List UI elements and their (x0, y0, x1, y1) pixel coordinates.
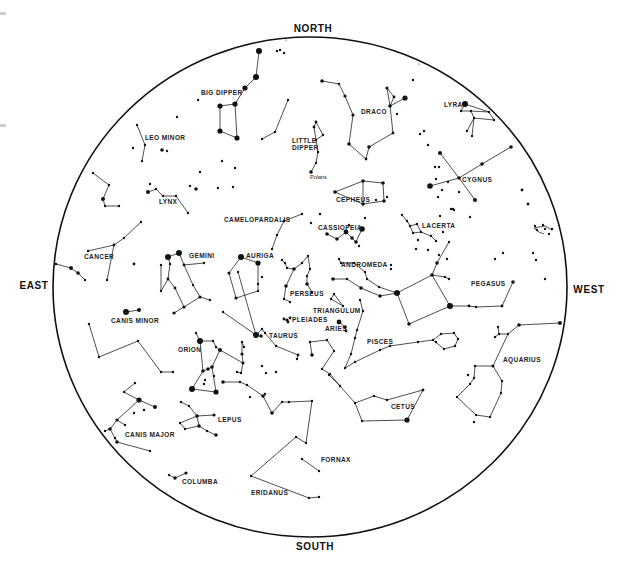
star (417, 341, 419, 343)
star (432, 339, 434, 341)
constellation-line (351, 338, 355, 354)
star (286, 267, 288, 269)
constellation-line (355, 350, 380, 362)
star (419, 133, 421, 135)
star (133, 263, 136, 266)
star (311, 400, 313, 402)
star (115, 418, 118, 421)
label-lynx: LYNX (159, 198, 178, 205)
star (124, 424, 126, 426)
constellation-line (168, 264, 170, 279)
constellation-line (409, 306, 450, 324)
star (470, 110, 472, 112)
direction-south: SOUTH (296, 541, 334, 552)
constellation-line (349, 115, 353, 144)
constellation-line (334, 294, 343, 306)
star (488, 111, 490, 113)
constellation-line (418, 340, 433, 342)
star (197, 338, 203, 344)
star (423, 130, 425, 132)
direction-east: EAST (19, 280, 48, 291)
star (257, 290, 259, 292)
star (430, 235, 432, 237)
star (199, 171, 201, 173)
star (362, 310, 364, 312)
label-cygnus: CYGNUS (462, 176, 492, 183)
constellation-line (397, 293, 409, 324)
star (375, 199, 377, 201)
star (378, 294, 382, 298)
label-pleiades: PLEIADES (292, 316, 328, 323)
constellation-line (192, 389, 216, 392)
star (189, 386, 195, 392)
star (386, 399, 388, 401)
constellation-line (322, 369, 330, 374)
star (285, 39, 286, 40)
constellation-line (387, 390, 423, 400)
star (218, 348, 222, 352)
star (136, 397, 141, 402)
star (330, 298, 332, 300)
stars-monoceros (88, 323, 174, 373)
label-lepus: LEPUS (218, 416, 242, 423)
star (160, 371, 162, 373)
constellation-line (345, 96, 353, 115)
constellation-line (263, 396, 272, 413)
star (325, 232, 329, 236)
star (361, 420, 363, 422)
star (241, 341, 243, 343)
constellation-line (114, 238, 124, 245)
star (306, 275, 308, 277)
star (137, 308, 141, 312)
star (149, 183, 151, 185)
star (187, 212, 189, 214)
star (133, 412, 135, 414)
constellation-line (383, 183, 384, 201)
constellation-line (247, 385, 263, 396)
constellation-cetus (329, 375, 423, 421)
constellation-line (432, 275, 445, 277)
star (415, 248, 417, 250)
star (354, 240, 358, 244)
constellation-line (440, 153, 459, 178)
star (227, 271, 230, 274)
edge-artifact (0, 12, 6, 15)
star (287, 321, 290, 324)
label-little-dipper-line2: DIPPER (292, 144, 319, 151)
star (498, 333, 500, 335)
constellation-aquarius (457, 323, 560, 417)
star (467, 374, 469, 376)
stars-cancer-east (55, 263, 86, 281)
star (283, 52, 285, 54)
star (215, 346, 217, 348)
star (182, 305, 185, 308)
star (542, 224, 544, 226)
constellation-line (138, 341, 161, 372)
star (261, 328, 263, 330)
stars-eridanus (221, 380, 320, 499)
label-leo-minor: LEO MINOR (145, 134, 185, 141)
star (438, 166, 440, 168)
star (333, 350, 335, 352)
constellation-line (88, 245, 114, 251)
constellation-line (362, 420, 407, 421)
star (265, 372, 267, 374)
star (253, 332, 259, 338)
constellation-line (441, 333, 454, 334)
star (359, 286, 363, 290)
constellation-line (534, 228, 544, 234)
star (473, 377, 475, 379)
star (123, 237, 125, 239)
star (351, 113, 354, 116)
star (259, 334, 263, 338)
constellation-line (322, 351, 334, 369)
label-canis-major: CANIS MAJOR (125, 431, 175, 438)
star (195, 332, 197, 334)
star (174, 287, 177, 290)
star (361, 179, 365, 183)
star (388, 104, 392, 108)
star (402, 95, 407, 100)
constellation-line (379, 287, 397, 293)
star (264, 393, 266, 395)
stars-gemini (160, 250, 211, 315)
